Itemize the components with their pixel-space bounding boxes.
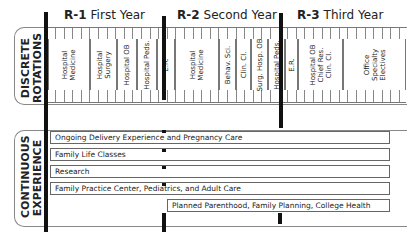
rail-tick [64,90,65,102]
rail-tick [399,90,400,102]
rail-tick [296,90,297,102]
continuous-row-delivery: Ongoing Delivery Experience and Pregnanc… [50,131,390,144]
rail-tick [89,90,90,102]
rail-tick [193,90,194,102]
rotation-label: Clin. Cl. [240,51,248,78]
rotation-r1-hospital-ob: Hospital OB [117,39,137,90]
rotation-r1-hospital-medicine: Hospital Medicine [48,39,90,90]
rail-tick [356,90,357,102]
year-header-r2: R-2Second Year [177,8,277,22]
rotation-label: Behav. Sci. [224,45,232,83]
rail-tick [390,90,391,102]
rail-tick [373,90,374,102]
rail-tick [287,90,288,102]
rail-tick [236,90,237,102]
year-divider-r1-start [44,12,48,232]
rail-tick [55,90,56,102]
rail-tick [175,90,176,102]
rotation-label: Hospital OB [123,44,131,85]
rail-tick [158,90,159,102]
rail-tick [141,90,142,102]
rail-tick [81,90,82,102]
rail-tick [261,90,262,102]
year-label: Second Year [204,8,277,22]
rail-tick [72,90,73,102]
rotation-label: Surg. Hosp. OB [256,38,264,91]
year-code: R-1 [64,8,87,22]
rotation-blocks: Hospital Medicine Hospital Surgery Hospi… [47,39,406,90]
rotation-r2-surg-hosp-ob: Surg. Hosp. OB [251,39,268,90]
year-divider-r3-start [279,13,283,128]
rail-tick [253,90,254,102]
rail-tick [313,90,314,102]
rail-tick [227,90,228,102]
rail-tick [365,90,366,102]
rail-tick [132,90,133,102]
year-header-r3: R-3Third Year [297,8,383,22]
rotation-r1-hospital-surgery: Hospital Surgery [90,39,117,90]
year-header-r1: R-1First Year [64,8,145,22]
rail-tick [201,90,202,102]
rotation-r2-er: E.R. [285,39,298,90]
rotation-r1-hospital-peds: Hospital Peds. [137,39,157,90]
rotation-label: E.R. [288,58,296,72]
rail-tick [150,90,151,102]
rail-tick [115,90,116,102]
continuous-experience-panel [14,130,407,227]
rail-tick [330,90,331,102]
continuous-experience-label: CONTINUOUSEXPERIENCE [20,138,44,218]
rail-tick [304,90,305,102]
rotation-label: Hospital Peds. [143,40,151,89]
year-divider-mark [162,130,166,133]
rail-tick [124,90,125,102]
rail-tick [347,90,348,102]
year-code: R-3 [297,8,320,22]
rotation-label: Hospital OB Chief Res. Clin. Cl. [309,44,333,85]
continuous-row-family-life: Family Life Classes [50,148,390,161]
year-code: R-2 [177,8,200,22]
rail-tick [210,90,211,102]
rotation-r2-behav-sci: Behav. Sci. [219,39,236,90]
rail-tick [382,90,383,102]
rail-tick [184,90,185,102]
rotation-r2-clin-cl: Clin. Cl. [236,39,251,90]
continuous-row-family-practice: Family Practice Center, Pediatrics, and … [50,182,390,195]
rail-tick [167,90,168,102]
rotation-r2-hospital-medicine: Hospital Medicine [175,39,219,90]
rail-tick [339,90,340,102]
year-divider-mark [162,166,166,169]
year-label: First Year [91,8,145,22]
rail-tick [270,90,271,102]
year-divider-r3-bottom [278,213,282,224]
rotation-r3-hospital-ob-chief-res-clin-cl: Hospital OB Chief Res. Clin. Cl. [298,39,343,90]
continuous-row-planned-parenthood: Planned Parenthood, Family Planning, Col… [167,199,390,212]
rotation-label: Hospital Surgery [96,50,112,79]
rotation-label: Hospital Medicine [189,49,205,80]
year-divider-mark [162,183,166,186]
rotation-r3-office-specialty-electives: Office Specialty Electives [343,39,406,90]
rotation-label: Hospital Medicine [61,49,77,80]
year-divider-mark [162,149,166,152]
rotation-label: Office Specialty Electives [363,48,387,80]
year-divider-r2-start [162,16,166,100]
rail-tick [218,90,219,102]
year-divider-r2-bottom [162,213,166,232]
rotation-r1-er: E.R. [157,39,175,90]
rail-tick [107,90,108,102]
year-label: Third Year [324,8,384,22]
rail-tick [322,90,323,102]
rail-tick [98,90,99,102]
rail-tick [244,90,245,102]
calendar-rail-bottom [47,89,406,103]
continuous-row-research: Research [50,165,390,178]
discrete-rotations-label: DISCRETEROTATIONS [20,28,44,108]
